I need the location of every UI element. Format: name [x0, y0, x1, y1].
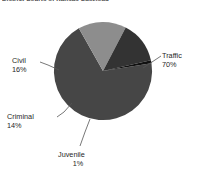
slice-label-criminal: Criminal 14% [7, 113, 34, 130]
slice-label-civil: Civil 16% [12, 57, 27, 74]
slice-label-traffic-pct: 70% [162, 61, 182, 70]
pie-chart-svg [0, 0, 200, 174]
slice-label-criminal-pct: 14% [7, 122, 34, 131]
slice-label-criminal-name: Criminal [7, 112, 34, 121]
slice-label-juvenile-pct: 1% [58, 160, 98, 169]
slice-label-civil-pct: 16% [12, 66, 27, 75]
slice-label-juvenile-name: Juvenile [58, 150, 85, 159]
slice-label-traffic-name: Traffic [162, 51, 182, 60]
slice-label-traffic: Traffic 70% [162, 52, 182, 69]
pie-chart-figure: District Courts of Kansas Caseload Traff… [0, 0, 200, 174]
slice-label-juvenile: Juvenile 1% [58, 151, 98, 168]
leader-line-criminal [57, 103, 72, 117]
leader-line-juvenile [80, 119, 90, 146]
slice-label-civil-name: Civil [12, 56, 26, 65]
